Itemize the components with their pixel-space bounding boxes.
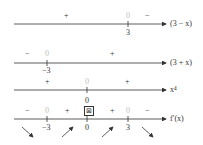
sign-zero: 0 xyxy=(45,107,49,115)
row-label: (3 − x) xyxy=(170,20,192,28)
undefined-marker: ⊠ xyxy=(84,106,94,116)
tick-label: −3 xyxy=(42,67,51,75)
sign-plus: + xyxy=(110,50,115,58)
sign-minus: − xyxy=(25,107,30,115)
tick-label: −3 xyxy=(42,124,51,132)
sign-minus: − xyxy=(145,12,150,20)
row-label: (3 + x) xyxy=(170,59,192,67)
tick-label: 0 xyxy=(85,124,89,132)
tick-label: 3 xyxy=(126,124,130,132)
row-label: x⁴ xyxy=(170,86,177,94)
sign-minus: − xyxy=(25,50,30,58)
sign-minus: − xyxy=(145,107,150,115)
tick-label: 3 xyxy=(126,29,130,37)
sign-zero: 0 xyxy=(126,107,130,115)
sign-zero: 0 xyxy=(126,12,130,20)
sign-plus: + xyxy=(64,12,69,20)
sign-plus: + xyxy=(110,107,115,115)
sign-zero: 0 xyxy=(85,78,89,86)
sign-plus: + xyxy=(125,78,130,86)
sign-zero: 0 xyxy=(45,50,49,58)
tick-label: 0 xyxy=(85,97,89,105)
sign-plus: + xyxy=(65,107,70,115)
row-label: f′(x) xyxy=(170,115,184,123)
sign-plus: + xyxy=(45,78,50,86)
